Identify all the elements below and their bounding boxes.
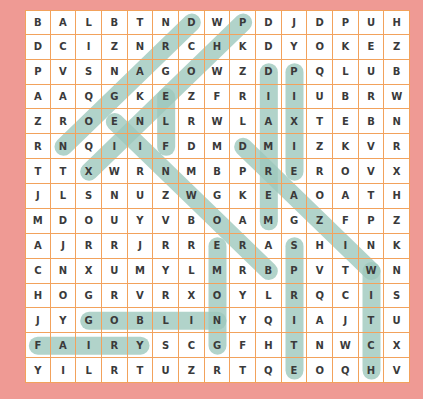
letter-cell[interactable]: M	[128, 259, 154, 284]
letter-cell[interactable]: W	[205, 109, 231, 134]
letter-cell[interactable]: O	[51, 284, 77, 309]
letter-cell[interactable]: A	[256, 234, 282, 259]
letter-cell[interactable]: Z	[25, 109, 51, 134]
letter-cell[interactable]: B	[384, 60, 410, 85]
letter-cell[interactable]: X	[76, 259, 102, 284]
letter-cell[interactable]: O	[307, 35, 333, 60]
letter-cell[interactable]: Y	[25, 358, 51, 383]
letter-cell[interactable]: P	[25, 60, 51, 85]
letter-cell[interactable]: E	[282, 159, 308, 184]
letter-cell[interactable]: O	[333, 159, 359, 184]
letter-cell[interactable]: T	[333, 259, 359, 284]
letter-cell[interactable]: N	[51, 134, 77, 159]
letter-cell[interactable]: X	[179, 284, 205, 309]
letter-cell[interactable]: N	[102, 184, 128, 209]
letter-cell[interactable]: Y	[51, 308, 77, 333]
letter-cell[interactable]: D	[25, 35, 51, 60]
letter-cell[interactable]: N	[102, 60, 128, 85]
letter-cell[interactable]: A	[128, 60, 154, 85]
letter-cell[interactable]: R	[205, 358, 231, 383]
letter-cell[interactable]: F	[230, 333, 256, 358]
letter-cell[interactable]: H	[256, 333, 282, 358]
letter-cell[interactable]: Z	[102, 35, 128, 60]
letter-cell[interactable]: B	[333, 85, 359, 110]
letter-cell[interactable]: E	[205, 234, 231, 259]
letter-cell[interactable]: J	[25, 308, 51, 333]
letter-cell[interactable]: C	[51, 35, 77, 60]
letter-cell[interactable]: B	[25, 10, 51, 35]
letter-cell[interactable]: T	[51, 159, 77, 184]
letter-cell[interactable]: Z	[230, 60, 256, 85]
letter-cell[interactable]: S	[76, 184, 102, 209]
letter-cell[interactable]: A	[51, 85, 77, 110]
letter-cell[interactable]: D	[230, 134, 256, 159]
letter-cell[interactable]: S	[282, 234, 308, 259]
letter-cell[interactable]: W	[205, 60, 231, 85]
letter-cell[interactable]: A	[307, 308, 333, 333]
letter-cell[interactable]: B	[102, 10, 128, 35]
letter-cell[interactable]: R	[230, 234, 256, 259]
letter-cell[interactable]: L	[76, 10, 102, 35]
letter-cell[interactable]: F	[333, 209, 359, 234]
letter-cell[interactable]: B	[179, 209, 205, 234]
letter-cell[interactable]: A	[25, 85, 51, 110]
letter-cell[interactable]: D	[51, 209, 77, 234]
letter-cell[interactable]: L	[153, 308, 179, 333]
letter-cell[interactable]: C	[179, 35, 205, 60]
letter-cell[interactable]: R	[25, 134, 51, 159]
letter-cell[interactable]: I	[76, 333, 102, 358]
letter-cell[interactable]: G	[282, 209, 308, 234]
letter-cell[interactable]: N	[384, 109, 410, 134]
letter-cell[interactable]: X	[384, 333, 410, 358]
letter-cell[interactable]: N	[359, 234, 385, 259]
letter-cell[interactable]: Q	[256, 308, 282, 333]
letter-cell[interactable]: W	[205, 10, 231, 35]
letter-cell[interactable]: V	[51, 60, 77, 85]
letter-cell[interactable]: E	[256, 184, 282, 209]
letter-cell[interactable]: L	[76, 358, 102, 383]
letter-cell[interactable]: O	[179, 60, 205, 85]
letter-cell[interactable]: I	[333, 234, 359, 259]
letter-cell[interactable]: K	[333, 35, 359, 60]
letter-cell[interactable]: R	[76, 234, 102, 259]
letter-cell[interactable]: Z	[179, 358, 205, 383]
letter-cell[interactable]: I	[256, 85, 282, 110]
letter-cell[interactable]: L	[51, 184, 77, 209]
letter-cell[interactable]: S	[153, 333, 179, 358]
letter-cell[interactable]: U	[102, 259, 128, 284]
letter-cell[interactable]: X	[76, 159, 102, 184]
letter-cell[interactable]: V	[307, 259, 333, 284]
letter-cell[interactable]: Q	[333, 358, 359, 383]
letter-cell[interactable]: R	[230, 85, 256, 110]
letter-cell[interactable]: Z	[307, 209, 333, 234]
letter-cell[interactable]: T	[128, 358, 154, 383]
letter-cell[interactable]: R	[102, 234, 128, 259]
letter-cell[interactable]: Y	[230, 284, 256, 309]
letter-cell[interactable]: N	[153, 159, 179, 184]
letter-cell[interactable]: E	[333, 109, 359, 134]
letter-cell[interactable]: N	[128, 35, 154, 60]
letter-cell[interactable]: Y	[128, 333, 154, 358]
letter-cell[interactable]: I	[282, 308, 308, 333]
letter-cell[interactable]: Q	[307, 284, 333, 309]
letter-cell[interactable]: M	[25, 209, 51, 234]
letter-cell[interactable]: J	[51, 234, 77, 259]
letter-cell[interactable]: V	[359, 134, 385, 159]
letter-cell[interactable]: L	[179, 259, 205, 284]
letter-cell[interactable]: U	[359, 10, 385, 35]
letter-cell[interactable]: K	[128, 85, 154, 110]
letter-cell[interactable]: R	[153, 234, 179, 259]
letter-cell[interactable]: D	[256, 35, 282, 60]
letter-cell[interactable]: Z	[307, 134, 333, 159]
letter-cell[interactable]: T	[307, 109, 333, 134]
letter-cell[interactable]: O	[76, 209, 102, 234]
letter-cell[interactable]: R	[307, 159, 333, 184]
letter-cell[interactable]: Z	[153, 184, 179, 209]
letter-cell[interactable]: I	[179, 308, 205, 333]
letter-cell[interactable]: V	[384, 358, 410, 383]
letter-cell[interactable]: L	[256, 284, 282, 309]
letter-cell[interactable]: R	[179, 109, 205, 134]
letter-cell[interactable]: Y	[282, 35, 308, 60]
letter-cell[interactable]: K	[333, 134, 359, 159]
letter-cell[interactable]: I	[282, 85, 308, 110]
